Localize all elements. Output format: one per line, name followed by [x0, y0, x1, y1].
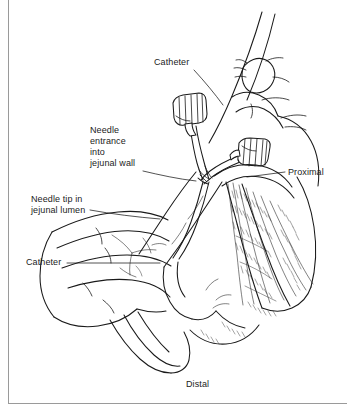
- leader-proximal: [247, 172, 285, 177]
- surgeon-lower-hand: [40, 211, 190, 373]
- label-distal: Distal: [186, 379, 209, 390]
- catheter-tubing: [173, 126, 240, 259]
- label-needle-entrance: Needle entrance into jejunal wall: [90, 125, 135, 169]
- mesenteric-vessels: [228, 183, 313, 305]
- catheter-hub-lower: [230, 138, 270, 166]
- catheter-hub-upper: [173, 93, 207, 136]
- label-catheter-top: Catheter: [154, 57, 189, 68]
- label-proximal: Proximal: [288, 167, 324, 178]
- label-catheter-left: Catheter: [26, 257, 61, 268]
- figure-root: Catheter Needle entrance into jejunal wa…: [0, 0, 347, 412]
- label-needle-tip: Needle tip in jejunal lumen: [31, 194, 85, 216]
- mesentery-shading: [201, 190, 301, 344]
- leader-needle-entrance: [143, 171, 196, 181]
